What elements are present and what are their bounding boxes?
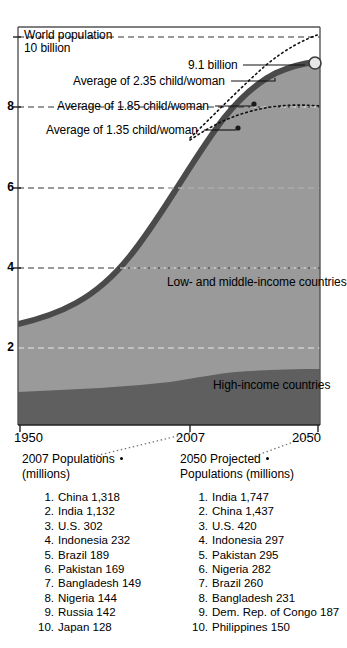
ytick-label-2: 2 <box>0 341 14 353</box>
area-label-high-income: High-income countries <box>213 379 330 392</box>
list-item: 6.Pakistan 169 <box>34 562 172 576</box>
list-item-rank: 9. <box>188 605 208 619</box>
list-2007-heading-line1: 2007 Populations <box>22 452 172 467</box>
endpoint-label: 9.1 billion <box>188 59 238 72</box>
list-2050-projected-populations: 2050 Projected Populations (millions) 1.… <box>180 452 335 634</box>
list-2050-items: 1.India 1,747 2.China 1,437 3.U.S. 420 4… <box>188 490 335 634</box>
list-item-rank: 8. <box>34 591 54 605</box>
list-2007-heading-line2: (millions) <box>22 467 172 482</box>
list-2050-heading-line2: Populations (millions) <box>180 467 335 482</box>
xtick-label-2007: 2007 <box>176 431 205 445</box>
ytick-label-8: 8 <box>0 100 14 112</box>
list-item-label: U.S. 302 <box>54 519 103 533</box>
list-2050-anchor-dot <box>266 457 269 460</box>
list-item-rank: 4. <box>188 533 208 547</box>
list-item: 10.Philippines 150 <box>188 620 335 634</box>
list-item-rank: 4. <box>34 533 54 547</box>
list-item-rank: 5. <box>188 548 208 562</box>
list-item: 2.India 1,132 <box>34 504 172 518</box>
list-item-label: China 1,437 <box>208 504 274 518</box>
list-item-label: Russia 142 <box>54 605 116 619</box>
list-item-label: India 1,747 <box>208 490 269 504</box>
xtick-label-1950: 1950 <box>14 431 43 445</box>
list-item-rank: 1. <box>34 490 54 504</box>
ten-billion-label: 10 billion <box>24 42 70 55</box>
list-item-label: Pakistan 295 <box>208 548 279 562</box>
annotation-185-child-per-woman: Average of 1.85 child/woman <box>57 100 209 113</box>
list-item-label: India 1,132 <box>54 504 115 518</box>
list-item-rank: 5. <box>34 548 54 562</box>
list-item: 6.Nigeria 282 <box>188 562 335 576</box>
list-item: 4.Indonesia 232 <box>34 533 172 547</box>
population-lists: 2007 Populations (millions) 1.China 1,31… <box>0 452 335 648</box>
list-item-rank: 7. <box>34 576 54 590</box>
list-item-label: China 1,318 <box>54 490 120 504</box>
annotation-235-child-per-woman: Average of 2.35 child/woman <box>73 75 225 88</box>
list-item: 5.Brazil 189 <box>34 548 172 562</box>
list-item: 5.Pakistan 295 <box>188 548 335 562</box>
list-item: 7.Bangladesh 149 <box>34 576 172 590</box>
list-item: 1.India 1,747 <box>188 490 335 504</box>
xtick-label-2050: 2050 <box>292 431 321 445</box>
list-item-label: Dem. Rep. of Congo 187 <box>208 605 339 619</box>
marker-91-billion-endpoint <box>309 57 321 69</box>
list-item-rank: 1. <box>188 490 208 504</box>
list-item-rank: 9. <box>34 605 54 619</box>
list-item: 3.U.S. 302 <box>34 519 172 533</box>
list-item: 2.China 1,437 <box>188 504 335 518</box>
list-item-label: Indonesia 297 <box>208 533 284 547</box>
list-item-rank: 6. <box>188 562 208 576</box>
ytick-label-4: 4 <box>0 261 14 273</box>
list-item-label: Nigeria 282 <box>208 562 271 576</box>
list-item: 4.Indonesia 297 <box>188 533 335 547</box>
list-item-label: Bangladesh 149 <box>54 576 141 590</box>
list-2050-heading-text: 2050 Projected <box>180 452 261 466</box>
list-item-label: Pakistan 169 <box>54 562 125 576</box>
area-label-low-middle-income: Low- and middle-income countries <box>167 276 347 289</box>
list-item: 10.Japan 128 <box>34 620 172 634</box>
list-2007-items: 1.China 1,318 2.India 1,132 3.U.S. 302 4… <box>34 490 172 634</box>
list-item-label: Indonesia 232 <box>54 533 130 547</box>
list-item: 8.Nigeria 144 <box>34 591 172 605</box>
list-item-label: Bangladesh 231 <box>208 591 295 605</box>
list-item: 9.Dem. Rep. of Congo 187 <box>188 605 335 619</box>
list-item-label: U.S. 420 <box>208 519 257 533</box>
list-item-label: Philippines 150 <box>208 620 290 634</box>
list-2050-heading-line1: 2050 Projected <box>180 452 335 467</box>
marker-185-dot <box>251 101 256 106</box>
ytick-label-6: 6 <box>0 181 14 193</box>
list-item-rank: 10. <box>34 620 54 634</box>
list-item: 8.Bangladesh 231 <box>188 591 335 605</box>
list-2007-heading-text: 2007 Populations <box>22 452 115 466</box>
marker-135-dot <box>235 125 240 130</box>
list-item-rank: 7. <box>188 576 208 590</box>
annotation-135-child-per-woman: Average of 1.35 child/woman <box>46 124 198 137</box>
population-area-chart: World population 10 billion 9.1 billion … <box>0 0 335 460</box>
list-item-rank: 2. <box>34 504 54 518</box>
list-item-rank: 3. <box>188 519 208 533</box>
list-item-rank: 8. <box>188 591 208 605</box>
list-item: 3.U.S. 420 <box>188 519 335 533</box>
list-item-label: Nigeria 144 <box>54 591 117 605</box>
list-item-rank: 6. <box>34 562 54 576</box>
list-item-label: Brazil 260 <box>208 576 263 590</box>
list-item-rank: 2. <box>188 504 208 518</box>
list-2007-anchor-dot <box>120 457 123 460</box>
list-item-rank: 3. <box>34 519 54 533</box>
list-item-label: Japan 128 <box>54 620 112 634</box>
list-item: 7.Brazil 260 <box>188 576 335 590</box>
list-item-label: Brazil 189 <box>54 548 109 562</box>
list-item: 9.Russia 142 <box>34 605 172 619</box>
list-item: 1.China 1,318 <box>34 490 172 504</box>
list-item-rank: 10. <box>188 620 208 634</box>
list-2007-populations: 2007 Populations (millions) 1.China 1,31… <box>22 452 172 634</box>
